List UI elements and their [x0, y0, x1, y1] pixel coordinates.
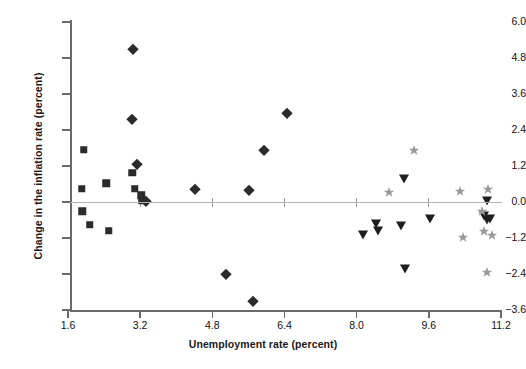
- data-point-star: [409, 145, 420, 156]
- y-tick-label: 2.4: [480, 123, 526, 135]
- data-point-diamond: [244, 185, 255, 196]
- data-point-triangle: [425, 214, 435, 223]
- data-point-diamond: [259, 145, 270, 156]
- data-point-star: [483, 184, 494, 195]
- x-tick-label: 4.8: [187, 319, 237, 331]
- y-tick-mark: [62, 21, 70, 23]
- data-point-triangle: [373, 226, 383, 235]
- data-point-square: [79, 207, 87, 215]
- y-tick-label: 3.6: [480, 87, 526, 99]
- x-tick-label: 1.6: [43, 319, 93, 331]
- data-point-diamond: [128, 44, 139, 55]
- y-tick-mark: [62, 309, 70, 311]
- y-tick-label: −3.6: [480, 303, 526, 315]
- x-tick-label: 6.4: [260, 319, 310, 331]
- data-point-triangle: [358, 231, 368, 240]
- data-point-diamond: [131, 158, 142, 169]
- data-point-star: [384, 187, 395, 198]
- y-tick-label: 6.0: [480, 15, 526, 27]
- data-point-diamond: [127, 113, 138, 124]
- data-point-triangle: [396, 222, 406, 231]
- y-tick-label: 4.8: [480, 51, 526, 63]
- x-tick-mark: [67, 311, 69, 318]
- data-point-diamond: [190, 184, 201, 195]
- scatter-chart: Change in the inflation rate (percent) U…: [0, 0, 526, 369]
- data-point-diamond: [248, 296, 259, 307]
- y-axis-title: Change in the inflation rate (percent): [32, 36, 44, 296]
- data-point-square: [86, 221, 94, 229]
- data-point-square: [105, 227, 113, 235]
- data-point-square: [128, 169, 136, 177]
- x-tick-mark: [356, 311, 358, 318]
- x-tick-mark: [500, 311, 502, 318]
- data-point-diamond: [281, 107, 292, 118]
- data-point-square: [103, 180, 111, 188]
- y-tick-mark: [62, 93, 70, 95]
- data-point-star: [454, 185, 465, 196]
- x-tick-mark: [284, 311, 286, 318]
- y-tick-mark: [62, 165, 70, 167]
- data-point-star: [481, 266, 492, 277]
- zero-reference-line: [70, 202, 502, 203]
- x-tick-mark: [212, 311, 214, 318]
- data-point-triangle: [399, 174, 409, 183]
- x-tick-mark: [139, 311, 141, 318]
- data-point-square: [80, 146, 88, 154]
- x-axis-line: [70, 310, 502, 312]
- data-point-triangle: [400, 264, 410, 273]
- data-point-star: [477, 206, 488, 217]
- x-axis-title: Unemployment rate (percent): [0, 338, 526, 350]
- y-tick-label: 1.2: [480, 159, 526, 171]
- data-point-star: [457, 232, 468, 243]
- y-tick-mark: [62, 57, 70, 59]
- y-tick-mark: [62, 201, 70, 203]
- x-tick-label: 9.6: [404, 319, 454, 331]
- x-tick-label: 11.2: [476, 319, 526, 331]
- y-tick-mark: [62, 129, 70, 131]
- data-point-triangle: [482, 196, 492, 205]
- y-tick-mark: [62, 273, 70, 275]
- data-point-square: [78, 185, 86, 193]
- x-tick-mark: [428, 311, 430, 318]
- data-point-diamond: [221, 269, 232, 280]
- data-point-star: [486, 230, 497, 241]
- x-tick-label: 8.0: [332, 319, 382, 331]
- y-tick-mark: [62, 237, 70, 239]
- y-axis-line: [70, 20, 72, 312]
- x-tick-label: 3.2: [115, 319, 165, 331]
